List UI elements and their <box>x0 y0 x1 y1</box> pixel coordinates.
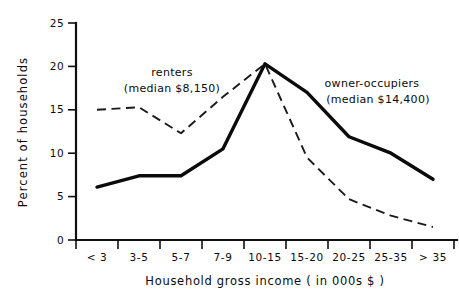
annotation-owners-line1: owner-occupiers <box>325 77 420 90</box>
chart-figure: 0 5 10 15 20 25 < 3 3-5 5-7 7-9 10-15 <box>0 0 459 295</box>
y-axis-title: Percent of households <box>16 57 30 207</box>
annotation-owners-line2: (median $14,400) <box>326 93 430 106</box>
x-tick-label-5: 15-20 <box>290 251 324 263</box>
x-tick-label-3: 7-9 <box>214 251 233 263</box>
y-tick-label-0: 0 <box>57 234 64 246</box>
annotation-renters-line2: (median $8,150) <box>124 82 220 95</box>
y-tick-label-25: 25 <box>50 17 64 29</box>
line-chart: 0 5 10 15 20 25 < 3 3-5 5-7 7-9 10-15 <box>0 0 459 295</box>
x-tick-label-0: < 3 <box>87 251 108 263</box>
x-tick-label-4: 10-15 <box>248 251 282 263</box>
x-axis-title: Household gross income ( in 000s $ ) <box>145 274 384 288</box>
y-tick-label-5: 5 <box>57 190 64 202</box>
y-tick-label-10: 10 <box>50 147 64 159</box>
x-tick-label-1: 3-5 <box>130 251 149 263</box>
x-tick-label-2: 5-7 <box>172 251 191 263</box>
y-tick-label-15: 15 <box>50 103 64 115</box>
x-tick-label-7: 25-35 <box>374 251 408 263</box>
y-axis-tick-labels: 0 5 10 15 20 25 <box>50 17 64 246</box>
x-axis-ticks <box>76 240 454 249</box>
x-tick-label-6: 20-25 <box>332 251 366 263</box>
annotation-owner-occupiers: owner-occupiers (median $14,400) <box>325 77 430 106</box>
annotation-renters: renters (median $8,150) <box>124 66 220 95</box>
annotation-renters-line1: renters <box>151 66 192 79</box>
x-tick-label-8: > 35 <box>419 251 447 263</box>
y-axis-ticks <box>68 23 76 240</box>
y-tick-label-20: 20 <box>50 60 64 72</box>
x-axis-tick-labels: < 3 3-5 5-7 7-9 10-15 15-20 20-25 25-35 … <box>87 251 447 263</box>
